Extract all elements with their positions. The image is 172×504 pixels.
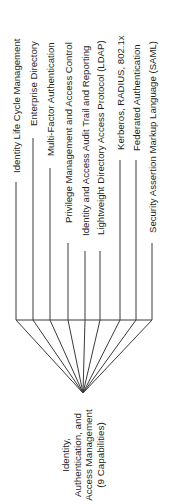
capability-label-audit-trail: Identity and Access Audit Trail and Repo… <box>80 46 91 236</box>
capability-label-privilege-management: Privilege Management and Access Control <box>63 42 74 223</box>
fan-line <box>16 320 83 393</box>
capability-label-ldap: Lightweight Directory Access Protocol (L… <box>95 40 106 235</box>
capability-label-federated-auth: Federated Authentication <box>131 44 142 151</box>
capability-label-enterprise-directory: Enterprise Directory <box>28 41 39 126</box>
capability-label-multi-factor-auth: Multi-Factor Authentication <box>45 42 56 156</box>
fan-line <box>83 320 120 393</box>
root-label-line: Identity, <box>60 409 72 500</box>
capability-label-kerberos: Kerberos, RADIUS, 802.1x <box>115 35 126 150</box>
capability-label-identity-life-cycle: Identity Life Cycle Management <box>11 39 22 173</box>
fan-line <box>83 320 85 393</box>
root-label-line: Access Management <box>83 409 95 500</box>
fan-line <box>50 320 83 393</box>
fan-line <box>83 320 136 393</box>
root-label-line: Authentication, and <box>72 409 84 500</box>
root-label: Identity, Authentication, and Access Man… <box>60 409 106 500</box>
root-label-line: (9 Capabilities) <box>95 409 107 500</box>
capability-label-saml: Security Assertion Markup Language (SAML… <box>147 41 158 233</box>
fan-line <box>83 320 152 393</box>
